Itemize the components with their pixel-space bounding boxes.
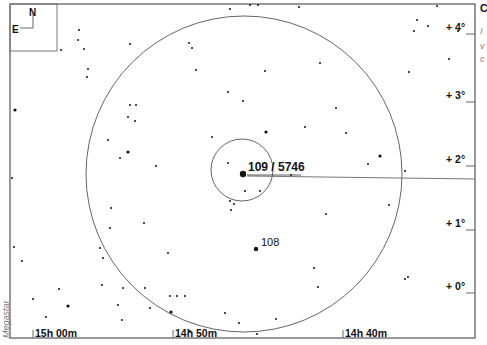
star bbox=[176, 295, 178, 297]
star bbox=[275, 318, 277, 320]
star bbox=[13, 246, 15, 248]
star bbox=[413, 30, 415, 32]
star bbox=[317, 286, 319, 288]
star bbox=[134, 120, 136, 122]
star bbox=[117, 304, 119, 306]
star bbox=[233, 203, 235, 205]
star bbox=[230, 209, 232, 211]
star-field bbox=[11, 4, 459, 335]
star bbox=[244, 190, 246, 192]
star bbox=[256, 333, 258, 335]
star bbox=[304, 126, 306, 128]
star bbox=[109, 227, 111, 229]
star bbox=[60, 49, 62, 51]
star bbox=[345, 132, 347, 134]
star bbox=[264, 130, 267, 133]
star bbox=[45, 316, 47, 318]
star bbox=[259, 190, 261, 192]
star bbox=[298, 6, 300, 8]
star bbox=[127, 116, 129, 118]
star bbox=[155, 165, 157, 167]
star bbox=[227, 91, 229, 93]
star bbox=[404, 170, 406, 172]
star bbox=[388, 204, 390, 206]
side-text-fragment: I bbox=[480, 26, 483, 36]
star bbox=[119, 157, 121, 159]
star bbox=[319, 62, 321, 64]
star bbox=[249, 4, 251, 6]
object-label: 108 bbox=[261, 236, 279, 248]
star bbox=[66, 304, 69, 307]
star bbox=[427, 25, 429, 27]
object-label: 109 / 5746 bbox=[248, 160, 305, 174]
star bbox=[77, 39, 79, 41]
right-ascension-axis: 15h 00m14h 50m14h 40m bbox=[33, 327, 387, 339]
star bbox=[188, 42, 190, 44]
star bbox=[367, 163, 369, 165]
star bbox=[211, 136, 213, 138]
star bbox=[78, 29, 80, 31]
star bbox=[169, 295, 171, 297]
object-marker bbox=[240, 171, 246, 177]
star bbox=[121, 319, 123, 321]
star bbox=[102, 257, 104, 259]
object-marker bbox=[254, 247, 258, 251]
star bbox=[99, 247, 101, 249]
object-pointer-line bbox=[247, 176, 475, 179]
compass-rose: N E bbox=[10, 4, 57, 51]
star bbox=[436, 5, 438, 7]
star bbox=[313, 267, 315, 269]
star bbox=[135, 104, 137, 106]
star bbox=[229, 200, 231, 202]
star bbox=[264, 70, 266, 72]
side-text-fragment: v bbox=[480, 41, 485, 51]
star bbox=[169, 310, 172, 313]
star bbox=[407, 276, 409, 278]
deep-sky-objects: 109 / 5746108 bbox=[240, 160, 305, 251]
side-text-fragment: c bbox=[480, 54, 485, 64]
star bbox=[58, 288, 60, 290]
star-chart: N E 109 / 5746108 + 4°+ 3°+ 2°+ 1°+ 0° 1… bbox=[0, 0, 487, 345]
star bbox=[238, 322, 240, 324]
star bbox=[378, 154, 381, 157]
star bbox=[32, 298, 34, 300]
ra-label: 14h 40m bbox=[345, 327, 387, 339]
star bbox=[167, 252, 169, 254]
north-label: N bbox=[29, 7, 36, 18]
star bbox=[325, 213, 327, 215]
dec-label: + 2° bbox=[446, 153, 465, 165]
star bbox=[13, 108, 16, 111]
star bbox=[144, 287, 146, 289]
star bbox=[149, 307, 151, 309]
star bbox=[191, 47, 193, 49]
credit-label: Megastar bbox=[1, 299, 11, 338]
declination-axis: + 4°+ 3°+ 2°+ 1°+ 0° bbox=[446, 21, 475, 293]
star bbox=[11, 177, 13, 179]
star bbox=[87, 68, 89, 70]
star bbox=[126, 150, 129, 153]
star bbox=[242, 100, 244, 102]
star bbox=[110, 207, 112, 209]
star bbox=[448, 58, 450, 60]
star bbox=[335, 107, 337, 109]
side-text-fragment: C bbox=[480, 2, 487, 14]
star bbox=[224, 312, 226, 314]
star bbox=[404, 278, 406, 280]
star bbox=[129, 104, 131, 106]
star bbox=[83, 48, 85, 50]
dec-label: + 4° bbox=[446, 21, 465, 33]
star bbox=[129, 43, 131, 45]
ra-label: 14h 50m bbox=[175, 327, 217, 339]
star bbox=[229, 8, 231, 10]
star bbox=[107, 139, 109, 141]
east-label: E bbox=[12, 24, 19, 35]
star bbox=[408, 71, 410, 73]
truncated-side-text: CIvc bbox=[480, 2, 487, 64]
star bbox=[257, 4, 259, 6]
ra-label: 15h 00m bbox=[35, 327, 77, 339]
star bbox=[184, 295, 186, 297]
dec-label: + 3° bbox=[446, 89, 465, 101]
star bbox=[416, 19, 418, 21]
star bbox=[195, 69, 197, 71]
dec-label: + 0° bbox=[446, 280, 465, 292]
